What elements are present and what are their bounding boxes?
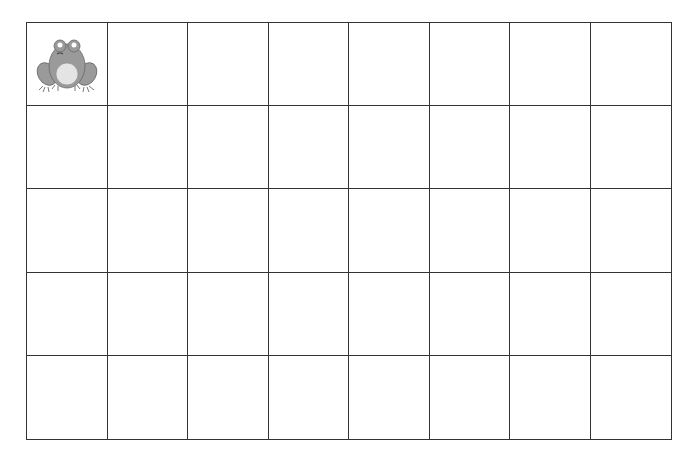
grid-cell-r3-c5 <box>430 273 511 356</box>
grid-cell-r2-c0 <box>27 189 108 272</box>
grid-cell-r0-c5 <box>430 23 511 106</box>
grid-cell-r0-c1 <box>108 23 189 106</box>
grid-cell-r0-c2 <box>188 23 269 106</box>
grid-cell-r3-c1 <box>108 273 189 356</box>
grid-cell-r4-c5 <box>430 356 511 439</box>
grid-cell-r3-c0 <box>27 273 108 356</box>
grid-cell-r3-c3 <box>269 273 350 356</box>
grid-cell-r1-c6 <box>510 106 591 189</box>
grid-cell-r2-c7 <box>591 189 672 272</box>
grid-cell-r0-c6 <box>510 23 591 106</box>
grid-cell-r2-c6 <box>510 189 591 272</box>
grid-cell-r4-c2 <box>188 356 269 439</box>
grid-cell-r3-c6 <box>510 273 591 356</box>
grid-cell-r2-c2 <box>188 189 269 272</box>
grid-cell-r1-c7 <box>591 106 672 189</box>
grid-cell-r2-c1 <box>108 189 189 272</box>
grid-cell-r4-c7 <box>591 356 672 439</box>
grid-cell-r1-c3 <box>269 106 350 189</box>
grid-cell-r3-c4 <box>349 273 430 356</box>
grid-cell-r1-c2 <box>188 106 269 189</box>
grid-cell-r4-c3 <box>269 356 350 439</box>
grid-cell-r1-c0 <box>27 106 108 189</box>
grid-cell-r0-c0 <box>27 23 108 106</box>
grid-cell-r3-c7 <box>591 273 672 356</box>
grid-cell-r0-c4 <box>349 23 430 106</box>
grid-cell-r4-c4 <box>349 356 430 439</box>
grid-cell-r4-c0 <box>27 356 108 439</box>
grid-cell-r1-c1 <box>108 106 189 189</box>
grid-cell-r4-c6 <box>510 356 591 439</box>
grid-cell-r3-c2 <box>188 273 269 356</box>
grid-cell-r0-c3 <box>269 23 350 106</box>
grid-cell-r0-c7 <box>591 23 672 106</box>
grid-cell-r2-c4 <box>349 189 430 272</box>
grid-cell-r1-c5 <box>430 106 511 189</box>
grid-cell-r2-c5 <box>430 189 511 272</box>
grid-cell-r4-c1 <box>108 356 189 439</box>
frog-icon <box>33 30 101 98</box>
grid-cell-r2-c3 <box>269 189 350 272</box>
frog-grid <box>26 22 672 440</box>
grid-cell-r1-c4 <box>349 106 430 189</box>
